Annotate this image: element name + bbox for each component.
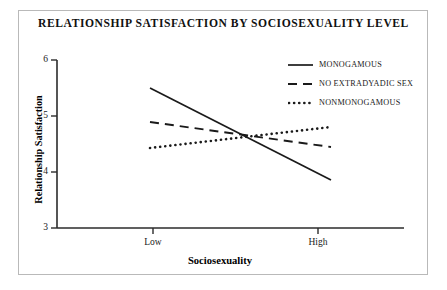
legend-label-no-extradyadic-sex: NO EXTRADYADIC SEX	[319, 79, 413, 88]
x-tick-label-low: Low	[123, 237, 183, 247]
legend-swatch-solid-icon	[288, 60, 313, 70]
legend-item-nonmonogamous: NONMONOGAMOUS	[288, 93, 438, 112]
chart-legend: MONOGAMOUS NO EXTRADYADIC SEX NONMONOGAM…	[288, 55, 438, 112]
legend-label-monogamous: MONOGAMOUS	[319, 60, 382, 69]
legend-label-nonmonogamous: NONMONOGAMOUS	[319, 98, 401, 107]
x-tick-label-high: High	[288, 237, 348, 247]
legend-item-monogamous: MONOGAMOUS	[288, 55, 438, 74]
y-tick-label-6: 6	[30, 54, 48, 64]
plot-canvas	[0, 0, 447, 290]
legend-swatch-dotted-icon	[288, 98, 313, 108]
x-axis-label: Sociosexuality	[60, 255, 380, 266]
legend-item-no-extradyadic-sex: NO EXTRADYADIC SEX	[288, 74, 438, 93]
series-line-nonmonogamous	[150, 127, 331, 148]
legend-swatch-dashed-icon	[288, 79, 313, 89]
y-axis-label: Relationship Satisfaction	[33, 70, 44, 230]
series-line-no-extradyadic-sex	[150, 122, 331, 147]
